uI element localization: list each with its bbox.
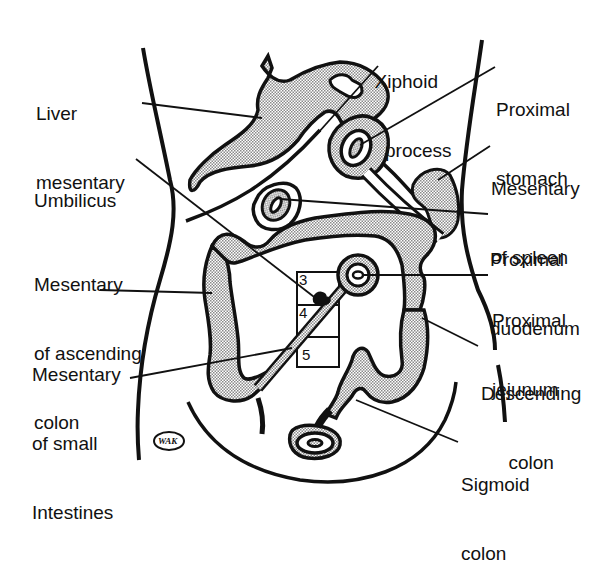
ascending-colon-tail bbox=[258, 398, 263, 434]
label-line: Proximal bbox=[492, 309, 566, 332]
label-line: Sigmoid bbox=[461, 473, 530, 496]
label-line: colon bbox=[461, 542, 530, 564]
leader-descending-colon bbox=[422, 318, 478, 346]
sigmoid-stalk bbox=[318, 410, 330, 426]
label-line: Mesentary bbox=[491, 177, 580, 200]
region-number-4: 4 bbox=[299, 304, 307, 321]
region-number-5: 5 bbox=[302, 346, 310, 363]
ascending-colon-mesentery bbox=[204, 246, 268, 401]
proximal-jejunum-lumen bbox=[353, 272, 363, 279]
leader-liver-mesentary bbox=[142, 103, 262, 118]
label-sigmoid-colon: Sigmoid colon bbox=[461, 427, 530, 564]
artist-logo: WAK bbox=[154, 432, 184, 450]
sigmoid-colon-lumen bbox=[308, 440, 322, 447]
label-line: Mesentary bbox=[34, 273, 142, 296]
label-line: Umbilicus bbox=[34, 189, 116, 212]
descending-colon-mesentery bbox=[326, 310, 428, 418]
label-line: Liver bbox=[36, 102, 125, 125]
label-line: Descending bbox=[481, 382, 581, 405]
label-line: of small bbox=[32, 432, 121, 455]
label-line: Xiphoid bbox=[361, 70, 452, 93]
label-xiphoid-process: Xiphoid process bbox=[365, 24, 452, 185]
logo-text: WAK bbox=[158, 436, 178, 446]
label-umbilicus: Umbilicus bbox=[34, 143, 116, 235]
label-line: process bbox=[385, 139, 452, 162]
label-line: Intestines bbox=[32, 501, 121, 524]
label-line: Mesentary bbox=[32, 363, 121, 386]
label-mesentary-of-small-intestines: Mesentary of small Intestines bbox=[32, 317, 121, 547]
label-line: Proximal bbox=[496, 98, 570, 121]
body-outline-left bbox=[138, 48, 174, 460]
